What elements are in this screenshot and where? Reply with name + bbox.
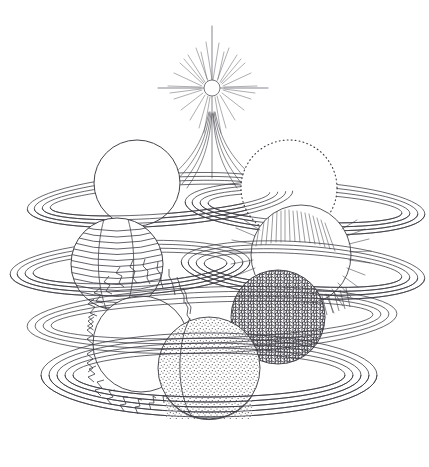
- planet-plain-top-left: [94, 140, 180, 226]
- planet-stipple-bottom: [158, 317, 260, 419]
- illustration-canvas: [0, 0, 429, 467]
- artboard: [0, 0, 429, 467]
- star-core: [204, 80, 220, 96]
